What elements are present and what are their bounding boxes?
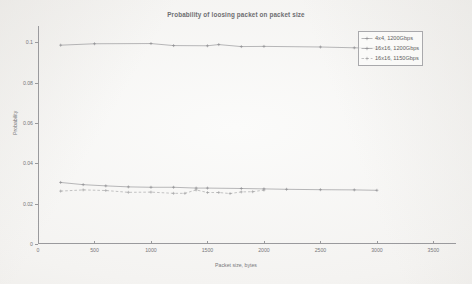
y-tick-label: 0.1 — [26, 39, 33, 45]
data-point-marker — [59, 181, 62, 184]
data-point-marker — [206, 44, 209, 47]
data-point-marker — [104, 189, 107, 192]
y-axis-label: Probability — [12, 111, 18, 135]
legend-item[interactable]: 4x4, 1200Gbps — [361, 34, 419, 43]
data-point-marker — [183, 192, 186, 195]
legend-label: 16x16, 1200Gbps — [375, 46, 419, 52]
legend-label: 4x4, 1200Gbps — [375, 36, 413, 42]
data-point-marker — [375, 189, 378, 192]
data-point-marker — [285, 188, 288, 191]
x-tick-label: 3000 — [371, 247, 383, 253]
data-point-marker — [353, 188, 356, 191]
data-point-marker — [127, 185, 130, 188]
chart-title: Probability of loosing packet on packet … — [0, 11, 472, 18]
legend-label: 16x16, 1150Gbps — [375, 56, 419, 62]
data-point-marker — [262, 45, 265, 48]
data-point-marker — [195, 188, 198, 191]
data-point-marker — [172, 192, 175, 195]
data-point-marker — [104, 184, 107, 187]
series-1 — [59, 42, 378, 50]
data-point-marker — [127, 191, 130, 194]
data-point-marker — [240, 190, 243, 193]
data-point-marker — [172, 186, 175, 189]
data-point-marker — [319, 188, 322, 191]
data-point-marker — [217, 191, 220, 194]
series-line — [61, 190, 264, 194]
data-point-marker — [149, 186, 152, 189]
data-point-marker — [240, 187, 243, 190]
x-tick-label: 2000 — [258, 247, 270, 253]
data-point-marker — [240, 45, 243, 48]
chart-figure: Probability of loosing packet on packet … — [0, 0, 472, 284]
x-tick-label: 1500 — [202, 247, 214, 253]
data-point-marker — [59, 44, 62, 47]
x-axis-label: Packet size, bytes — [0, 262, 472, 268]
x-tick-label: 2500 — [315, 247, 327, 253]
y-tick — [35, 244, 38, 245]
data-point-marker — [217, 43, 220, 46]
data-point-marker — [149, 42, 152, 45]
data-point-marker — [229, 192, 232, 195]
legend-item[interactable]: 16x16, 1150Gbps — [361, 54, 419, 63]
y-tick-label: 0.02 — [23, 201, 33, 207]
x-tick-label: 3500 — [428, 247, 440, 253]
y-tick-label: 0.08 — [23, 80, 33, 86]
data-point-marker — [251, 190, 254, 193]
data-point-marker — [82, 188, 85, 191]
legend-line-swatch — [361, 35, 373, 42]
data-point-marker — [59, 190, 62, 193]
series-line — [61, 182, 377, 190]
data-point-marker — [353, 46, 356, 49]
series-2 — [59, 181, 378, 192]
legend-item[interactable]: 16x16, 1200Gbps — [361, 44, 419, 53]
data-point-marker — [206, 187, 209, 190]
data-point-marker — [93, 42, 96, 45]
x-tick-label: 0 — [37, 247, 40, 253]
legend-line-swatch — [361, 45, 373, 52]
data-point-marker — [149, 191, 152, 194]
series-3 — [59, 188, 265, 195]
y-tick-label: 0.04 — [23, 160, 33, 166]
x-tick-label: 1000 — [145, 247, 157, 253]
data-point-marker — [319, 45, 322, 48]
chart-legend: 4x4, 1200Gbps16x16, 1200Gbps16x16, 1150G… — [358, 31, 423, 66]
y-tick-label: 0 — [30, 241, 33, 247]
data-point-marker — [206, 191, 209, 194]
legend-line-swatch — [361, 55, 373, 62]
data-point-marker — [172, 44, 175, 47]
data-point-marker — [82, 183, 85, 186]
y-tick-label: 0.06 — [23, 120, 33, 126]
x-tick-label: 500 — [90, 247, 99, 253]
